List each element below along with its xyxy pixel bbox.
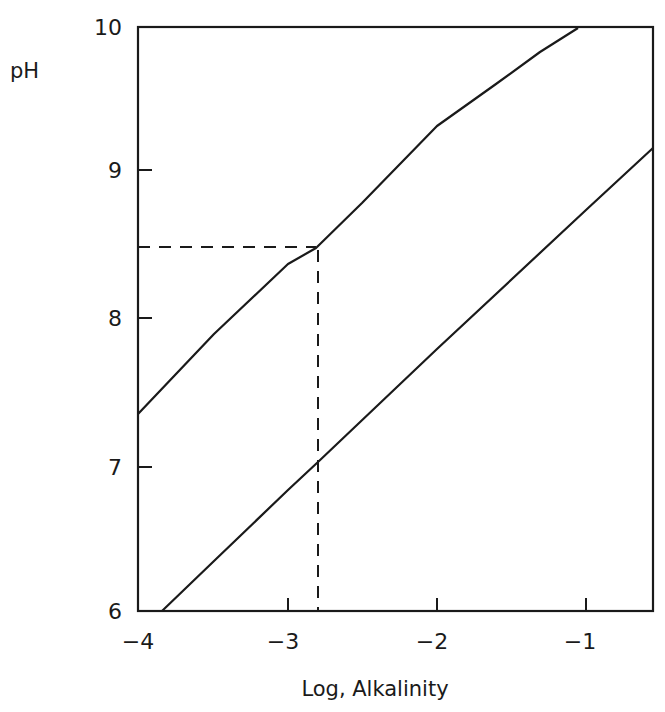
x-axis-title: Log, Alkalinity — [301, 677, 448, 701]
upper-curve — [138, 28, 578, 414]
y-axis-title: pH — [10, 59, 39, 83]
y-tick-label-9: 9 — [108, 158, 122, 183]
x-tick-labels: −4 −3 −2 −1 — [122, 629, 596, 654]
y-axis-ticks — [138, 170, 152, 467]
x-tick-label-minus1: −1 — [564, 629, 596, 654]
x-axis-ticks — [288, 598, 586, 611]
y-tick-label-6: 6 — [108, 599, 122, 624]
y-tick-labels: 10 9 8 7 6 — [94, 15, 122, 624]
lower-line — [162, 148, 653, 611]
y-tick-label-8: 8 — [108, 306, 122, 331]
x-tick-label-minus3: −3 — [267, 629, 299, 654]
y-tick-label-10: 10 — [94, 15, 122, 40]
plot-frame — [138, 27, 653, 611]
chart-figure: 10 9 8 7 6 −4 −3 −2 −1 pH Log, Alkalinit… — [0, 0, 665, 712]
x-tick-label-minus2: −2 — [416, 629, 448, 654]
x-tick-label-minus4: −4 — [122, 629, 154, 654]
y-tick-label-7: 7 — [108, 455, 122, 480]
